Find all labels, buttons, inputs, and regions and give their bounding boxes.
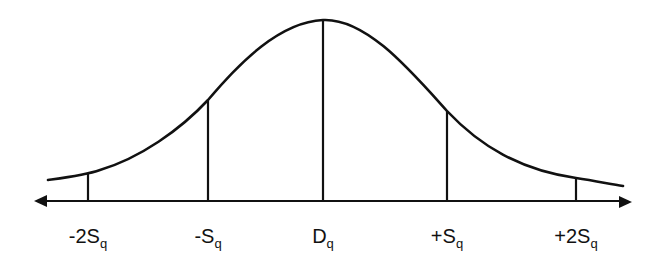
label-main: D [312, 225, 326, 247]
label-main: +2S [554, 225, 590, 247]
label-main: -S [194, 225, 214, 247]
label-subscript: q [590, 236, 597, 251]
label-subscript: q [327, 236, 334, 251]
axis-arrow-left-icon [34, 195, 47, 207]
label-subscript: q [456, 236, 463, 251]
label-minus-1sd: -Sq [194, 224, 221, 248]
label-main: -2S [69, 225, 100, 247]
label-mean: Dq [312, 224, 334, 248]
label-subscript: q [214, 236, 221, 251]
axis-arrow-right-icon [619, 196, 632, 208]
label-plus-1sd: +Sq [431, 224, 463, 248]
bell-curve [48, 20, 623, 186]
label-main: +S [431, 225, 456, 247]
label-minus-2sd: -2Sq [69, 224, 107, 248]
label-plus-2sd: +2Sq [554, 224, 597, 248]
label-subscript: q [100, 236, 107, 251]
